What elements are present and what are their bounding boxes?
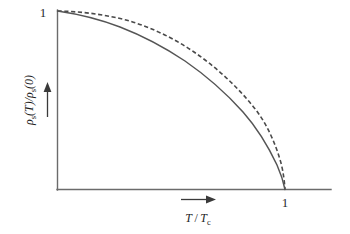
x-label-denominator-subscript: c	[207, 217, 211, 227]
svg-text:ρs(T)/ρs(0): ρs(T)/ρs(0)	[22, 75, 38, 126]
plot-svg: 1 1 ρs(T)/ρs(0) T/Tc	[0, 0, 350, 234]
figure-container: 1 1 ρs(T)/ρs(0) T/Tc	[0, 0, 350, 234]
x-axis-tick-label-1: 1	[282, 195, 289, 210]
x-label-separator: /	[194, 211, 198, 225]
dashed-curve-path	[58, 11, 286, 190]
y-axis-label: ρs(T)/ρs(0)	[22, 75, 38, 126]
y-label-mid: (T)/	[22, 96, 36, 116]
y-axis-tick-label-1: 1	[40, 5, 47, 20]
x-label-numerator: T	[185, 211, 193, 225]
x-axis-label: T/Tc	[185, 211, 211, 227]
right-arrow-icon	[181, 196, 216, 204]
up-arrow-icon	[44, 82, 52, 117]
y-label-end: (0)	[22, 75, 36, 89]
